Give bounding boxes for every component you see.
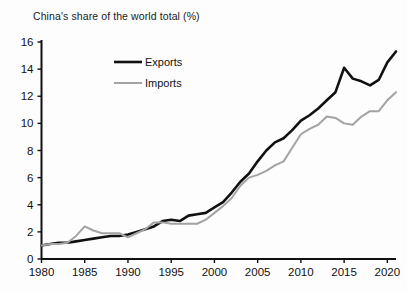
y-tick-label: 8 [27,145,33,157]
x-tick-label: 2020 [375,266,401,278]
chart-legend: ExportsImports [114,56,183,89]
y-tick-label: 16 [21,36,34,48]
y-tick-label: 12 [21,90,34,102]
x-tick-label: 1980 [29,266,55,278]
x-tick-label: 2000 [202,266,228,278]
y-tick-label: 2 [27,226,33,238]
y-tick-label: 0 [27,253,33,265]
data-series-group [42,51,397,245]
series-line-exports [42,51,397,245]
x-axis-tick-labels: 198019851990199520002005201020152020 [29,266,400,278]
y-tick-label: 6 [27,172,33,184]
chart-container: China's share of the world total (%) 024… [0,0,407,292]
x-tick-label: 2010 [288,266,314,278]
x-tick-label: 2015 [331,266,357,278]
x-tick-label: 1990 [115,266,141,278]
x-tick-label: 1995 [158,266,184,278]
y-tick-label: 10 [21,117,34,129]
legend-label-imports: Imports [145,77,182,89]
x-tick-label: 1985 [72,266,98,278]
y-tick-label: 14 [21,63,34,75]
line-chart-plot: 0246810121416 19801985199019952000200520… [0,0,407,292]
x-tick-label: 2005 [245,266,271,278]
series-line-imports [42,92,397,245]
y-tick-label: 4 [27,199,34,211]
legend-label-exports: Exports [145,56,183,68]
y-axis-tick-labels: 0246810121416 [21,36,34,265]
